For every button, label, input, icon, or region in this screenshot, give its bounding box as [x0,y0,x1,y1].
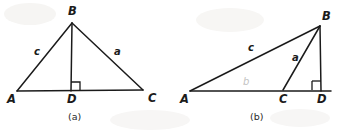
panel-a-caption: (a) [68,112,81,122]
panel-a-vertex-label-D: D [67,94,77,106]
panel-a-side-label-c: c [34,47,40,57]
panel-b-side-label-c: c [248,43,254,53]
figure-svg [0,0,341,135]
panel-b-vertex-label-B: B [322,11,331,23]
panel-b-vertex-label-D: D [317,94,327,106]
scan-artifacts [0,0,341,135]
panel-b-side-label-b: b [243,77,249,87]
segment-a-altitude-BD [71,23,72,91]
geometry-figure: A B C D c a (a) A B C D c a b (b) [0,0,341,135]
panel-a-vertex-label-A: A [7,94,16,106]
panel-b-vertex-label-A: A [180,94,189,106]
panel-b-caption: (b) [250,112,263,122]
panel-b-vertex-label-C: C [279,94,287,106]
panel-b-side-label-a: a [292,53,299,63]
panel-a-vertex-label-B: B [68,6,77,18]
panel-a-side-label-a: a [114,47,121,57]
panel-a-vertex-label-C: C [148,93,156,105]
